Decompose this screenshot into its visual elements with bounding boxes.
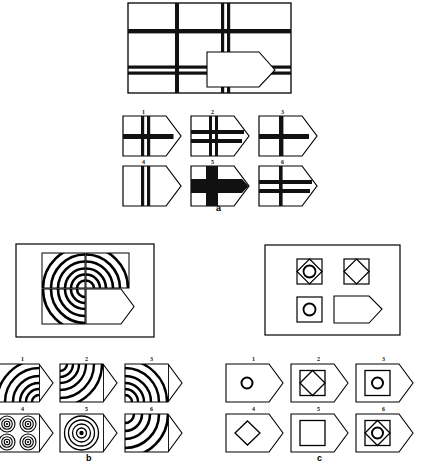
option-number: 2 (85, 356, 88, 362)
vertical-bar-a (141, 166, 144, 206)
cell-divider (168, 414, 169, 452)
bullseye-dot (79, 431, 83, 435)
option-number: 2 (317, 356, 320, 362)
horizontal-bar-upper (128, 29, 291, 33)
panel-b-option-4[interactable] (0, 413, 59, 453)
panel-c-option-6[interactable] (355, 413, 419, 453)
horizontal-bar (259, 134, 309, 139)
option-outline (226, 364, 283, 402)
panel-letter-c: c (317, 454, 322, 463)
option-outline (259, 166, 317, 206)
option-number: 1 (21, 356, 24, 362)
option-number: 6 (150, 406, 153, 412)
option-outline (191, 116, 249, 156)
panel-c-option-3[interactable] (355, 363, 419, 403)
option-number: 3 (382, 356, 385, 362)
panel-b-option-6[interactable] (124, 413, 188, 453)
panel-c-option-1[interactable] (225, 363, 289, 403)
panel-a-option-4[interactable] (122, 165, 184, 207)
vertical-bar-b (147, 166, 150, 206)
panel-c-option-5[interactable] (290, 413, 354, 453)
panel-a-option-3[interactable] (258, 115, 320, 157)
option-number: 5 (85, 406, 88, 412)
panel-a-option-5[interactable] (190, 165, 252, 207)
horizontal-bar-b (191, 139, 242, 143)
cell-divider (103, 414, 104, 452)
panel-b-matrix[interactable] (15, 243, 155, 338)
option-number: 5 (317, 406, 320, 412)
panel-c-matrix[interactable] (264, 244, 401, 336)
puzzle-panel-c: 1 2 3 4 5 6 (217, 236, 434, 472)
panel-a-option-2[interactable] (190, 115, 252, 157)
panel-a-matrix[interactable] (127, 2, 292, 94)
cell-square-diamond-circle (297, 259, 322, 284)
panel-c-option-4[interactable] (225, 413, 289, 453)
panel-b-option-2[interactable] (59, 363, 123, 403)
vertical-bar-a (209, 116, 212, 156)
cell-divider (39, 364, 40, 402)
cell-divider (103, 364, 104, 402)
horizontal-bar-a (259, 180, 312, 184)
horizontal-bar (123, 134, 174, 139)
option-number: 6 (382, 406, 385, 412)
vertical-bar-mid (175, 3, 179, 93)
cell-square-circle (297, 297, 322, 322)
panel-letter-a: a (216, 204, 221, 213)
cell-square-diamond (344, 259, 369, 284)
panel-b-option-1[interactable] (0, 363, 59, 403)
panel-b-option-5[interactable] (59, 413, 123, 453)
puzzle-panel-b: 1 2 (0, 236, 217, 472)
thick-horizontal-bar (191, 179, 249, 193)
cell-divider (39, 414, 40, 452)
panel-letter-b: b (86, 454, 92, 463)
panel-a-option-6[interactable] (258, 165, 320, 207)
panel-c-option-2[interactable] (290, 363, 354, 403)
option-outline (0, 414, 53, 452)
option-number: 1 (252, 356, 255, 362)
option-number: 4 (21, 406, 24, 412)
vertical-bar-b (215, 116, 218, 156)
panel-b-option-3[interactable] (124, 363, 188, 403)
horizontal-bar-a (191, 130, 244, 134)
option-number: 3 (150, 356, 153, 362)
puzzle-panel-a: 1 2 3 4 (0, 0, 434, 215)
vertical-bar (279, 166, 283, 206)
horizontal-bar-b (259, 189, 310, 193)
option-number: 4 (252, 406, 255, 412)
option-outline (123, 166, 181, 206)
cell-divider (168, 364, 169, 402)
panel-a-option-1[interactable] (122, 115, 184, 157)
matrix-border (265, 245, 400, 335)
